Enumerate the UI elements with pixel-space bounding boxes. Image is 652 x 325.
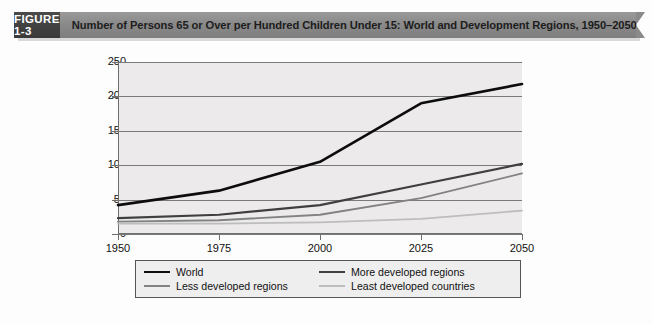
legend-label-world: World <box>176 266 203 278</box>
line-swatch-world-icon <box>144 271 170 274</box>
x-axis-tick-label: 1950 <box>88 242 148 254</box>
x-axis-tick-label: 2050 <box>492 242 552 254</box>
line-swatch-more-developed-icon <box>319 271 345 273</box>
line-swatch-least-developed-icon <box>319 285 345 287</box>
legend-item-least-developed: Least developed countries <box>319 280 514 292</box>
x-axis-tick-mark <box>522 234 523 240</box>
figure-title: Number of Persons 65 or Over per Hundred… <box>60 12 637 38</box>
figure-number-badge: FIGURE 1-3 <box>14 12 60 38</box>
figure-header-bar: FIGURE 1-3 Number of Persons 65 or Over … <box>14 12 636 38</box>
chart-area: 050100150200250 19501975200020252050 Wor… <box>14 48 638 310</box>
figure-container: FIGURE 1-3 Number of Persons 65 or Over … <box>0 0 652 325</box>
line-swatch-less-developed-icon <box>144 285 170 287</box>
x-axis-tick-label: 2000 <box>290 242 350 254</box>
series-lines <box>118 62 522 234</box>
legend-label-less-developed: Less developed regions <box>176 280 288 292</box>
header-shadow <box>18 38 640 41</box>
x-axis-tick-label: 2025 <box>391 242 451 254</box>
x-axis-tick-label: 1975 <box>189 242 249 254</box>
legend-label-more-developed: More developed regions <box>351 266 465 278</box>
legend-item-world: World <box>144 266 319 278</box>
legend-item-less-developed: Less developed regions <box>144 280 319 292</box>
series-line-world <box>118 84 522 205</box>
plot-area <box>118 62 522 234</box>
legend-label-least-developed: Least developed countries <box>351 280 475 292</box>
legend-item-more-developed: More developed regions <box>319 266 514 278</box>
gridline <box>118 234 522 235</box>
series-line-more-developed-regions <box>118 164 522 218</box>
chart-legend: World More developed regions Less develo… <box>135 260 521 298</box>
